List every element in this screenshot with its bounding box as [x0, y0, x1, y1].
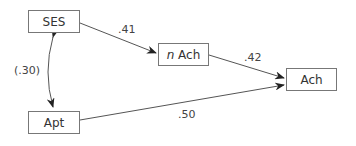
- node-nach-label: Ach: [174, 48, 200, 62]
- coef-ses-nach: .41: [118, 23, 136, 36]
- node-ach: Ach: [286, 68, 337, 91]
- node-ses: SES: [28, 10, 80, 33]
- node-apt-label: Apt: [44, 116, 65, 130]
- node-ach-label: Ach: [300, 73, 322, 87]
- path-diagram: SES Apt n Ach Ach .41 .42 .50 (.30): [0, 0, 356, 146]
- node-ses-label: SES: [43, 15, 66, 29]
- coef-apt-ach: .50: [178, 108, 196, 121]
- coef-nach-ach: .42: [244, 51, 262, 64]
- node-apt: Apt: [28, 111, 80, 134]
- coef-ses-apt: (.30): [14, 64, 40, 77]
- arrow-ses-apt-correlation: [48, 37, 53, 107]
- node-nach-prefix: n: [167, 48, 175, 62]
- node-nach: n Ach: [158, 43, 209, 66]
